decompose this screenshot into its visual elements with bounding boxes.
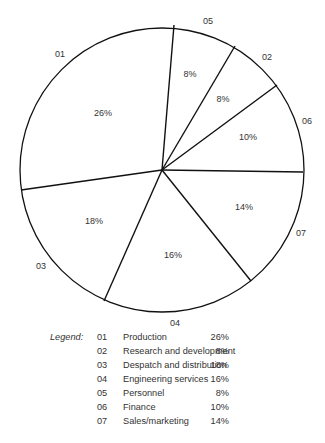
- legend-code: 05: [97, 388, 107, 398]
- legend-pct: 10%: [211, 402, 229, 412]
- legend-pct: 8%: [216, 346, 229, 356]
- slice-pct-06: 10%: [239, 132, 257, 142]
- slice-pct-03: 18%: [85, 216, 103, 226]
- legend-pct: 26%: [211, 332, 229, 342]
- slice-pct-05: 8%: [183, 69, 196, 79]
- legend-code: 01: [97, 332, 107, 342]
- slice-code-06: 06: [302, 116, 312, 126]
- legend-label: Production: [123, 332, 167, 342]
- legend-row: 03 Despatch and distribution 18%: [0, 360, 325, 374]
- slice-code-04: 04: [170, 318, 180, 328]
- legend-label: Engineering services: [123, 374, 208, 384]
- legend-title: Legend:: [50, 332, 83, 342]
- legend-pct: 8%: [216, 388, 229, 398]
- slice-pct-07: 14%: [235, 202, 253, 212]
- legend-row: 07 Sales/marketing 14%: [0, 416, 325, 430]
- slice-code-05: 05: [203, 16, 213, 26]
- legend-pct: 18%: [211, 360, 229, 370]
- legend-pct: 16%: [211, 374, 229, 384]
- legend-code: 07: [97, 416, 107, 426]
- slice-code-01: 01: [55, 49, 65, 59]
- legend-code: 04: [97, 374, 107, 384]
- slice-code-02: 02: [262, 52, 272, 62]
- legend-label: Personnel: [123, 388, 164, 398]
- slice-code-03: 03: [36, 261, 46, 271]
- pie-chart: 26% 8% 8% 10% 14% 16% 18% 01 05 02 06 07…: [0, 0, 325, 330]
- slice-pct-01: 26%: [94, 108, 112, 118]
- slice-pct-02: 8%: [216, 94, 229, 104]
- legend-row: 02 Research and development 8%: [0, 346, 325, 360]
- legend-row: 06 Finance 10%: [0, 402, 325, 416]
- legend-row: Legend: 01 Production 26%: [0, 332, 325, 346]
- legend-pct: 14%: [211, 416, 229, 426]
- legend-label: Finance: [123, 402, 156, 412]
- slice-pct-04: 16%: [164, 250, 182, 260]
- legend-row: 05 Personnel 8%: [0, 388, 325, 402]
- legend-code: 06: [97, 402, 107, 412]
- legend-code: 02: [97, 346, 107, 356]
- slice-code-07: 07: [296, 228, 306, 238]
- legend-code: 03: [97, 360, 107, 370]
- legend-row: 04 Engineering services 16%: [0, 374, 325, 388]
- legend-label: Sales/marketing: [123, 416, 189, 426]
